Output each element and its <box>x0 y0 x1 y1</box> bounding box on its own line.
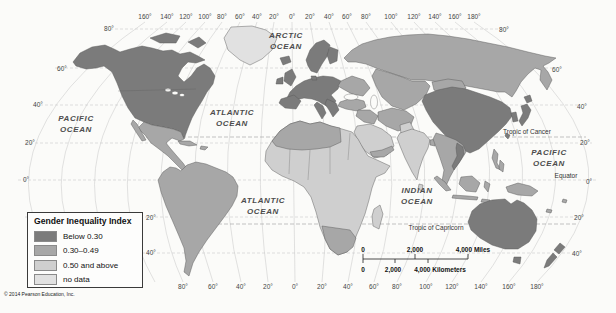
longitude-label: 120° <box>179 13 193 20</box>
longitude-label: 40° <box>343 283 353 290</box>
region-philippines <box>499 160 504 172</box>
latitude-label: 20° <box>580 139 590 146</box>
longitude-label: 40° <box>252 13 262 20</box>
longitude-label: 140° <box>474 283 488 290</box>
pacific-ocean-e-label: PACIFIC <box>531 148 567 157</box>
longitude-label: 80° <box>361 13 371 20</box>
legend: Gender Inequality Index Below 0.300.30–0… <box>27 212 143 288</box>
region-hispaniola <box>200 146 208 150</box>
atlantic-ocean-s-label: OCEAN <box>247 207 279 216</box>
region-iceland <box>280 56 291 65</box>
region-south-america <box>158 162 238 276</box>
region-denmark <box>311 76 317 80</box>
tropic-of-cancer-label: Tropic of Cancer <box>503 128 552 136</box>
scale-miles-label: 0 <box>361 246 365 253</box>
longitude-label: 80° <box>392 283 402 290</box>
longitude-label: 20° <box>317 283 327 290</box>
region-ireland <box>276 77 283 84</box>
longitude-label: 40° <box>236 283 246 290</box>
tropic-of-capricorn-label: Tropic of Capricorn <box>408 224 463 232</box>
region-new-zealand <box>544 253 557 268</box>
longitude-label: 120° <box>445 283 459 290</box>
region-cuba <box>178 141 197 146</box>
legend-items: Below 0.300.30–0.490.50 and aboveno data <box>34 229 136 287</box>
latitude-label: 0° <box>23 176 30 183</box>
longitude-label: 160° <box>448 13 462 20</box>
scale-miles-label: 2,000 <box>407 246 424 254</box>
scale-kilometers-label: 2,000 <box>385 266 402 274</box>
longitude-label: 40° <box>324 13 334 20</box>
legend-item-label: Below 0.30 <box>63 232 103 241</box>
indian-ocean-label: OCEAN <box>401 197 433 206</box>
copyright: © 2014 Pearson Education, Inc. <box>4 291 75 297</box>
legend-swatch <box>34 274 57 285</box>
scale-bar <box>363 254 468 263</box>
latitude-label: 80° <box>104 25 114 32</box>
longitude-label: 100° <box>384 13 398 20</box>
region-arctic-islands <box>188 37 206 48</box>
longitude-label: 60° <box>208 283 218 290</box>
region-new-zealand <box>554 243 565 254</box>
latitude-label: 20° <box>574 214 584 221</box>
region-india <box>397 129 430 180</box>
legend-swatch <box>34 231 57 242</box>
legend-item: no data <box>34 273 136 288</box>
longitude-label: 100° <box>419 283 433 290</box>
longitude-label: 60° <box>342 13 352 20</box>
region-pacific-island <box>546 209 552 213</box>
longitude-label: 140° <box>160 13 174 20</box>
pacific-ocean-nw-label: PACIFIC <box>58 114 94 123</box>
longitude-label: 160° <box>502 283 516 290</box>
legend-item-label: 0.30–0.49 <box>63 246 99 255</box>
pacific-ocean-e-label: OCEAN <box>533 159 565 168</box>
region-uk <box>284 69 296 86</box>
latitude-label: 20° <box>25 139 35 146</box>
arctic-ocean-label: ARCTIC <box>268 31 303 40</box>
region-iraq-syria <box>356 110 378 124</box>
scale-bar-labels: 02,0004,000 Miles02,0004,000 Kilometers <box>361 246 490 275</box>
latitude-label: 80° <box>499 26 509 33</box>
legend-title: Gender Inequality Index <box>34 216 136 226</box>
longitude-label: 160° <box>138 13 152 20</box>
legend-item: Below 0.30 <box>34 229 136 244</box>
latitude-label: 60° <box>57 65 67 72</box>
region-north-africa <box>272 121 341 150</box>
region-eastern-europe <box>338 76 370 96</box>
atlantic-ocean-n-label: ATLANTIC <box>209 108 254 117</box>
longitude-label: 180° <box>530 283 544 290</box>
pacific-ocean-nw-label: OCEAN <box>60 125 92 134</box>
scale-kilometers-label: 0 <box>361 266 365 273</box>
region-korea <box>511 112 518 122</box>
latitude-label: 40° <box>33 101 43 108</box>
atlantic-ocean-s-label: ATLANTIC <box>240 196 285 205</box>
legend-item: 0.30–0.49 <box>34 244 136 259</box>
legend-swatch <box>34 260 57 271</box>
region-pacific-island <box>562 199 567 203</box>
map-figure: 160°140°120°100°80°60°40°20°0°20°40°60°8… <box>0 0 616 313</box>
legend-item-label: 0.50 and above <box>63 261 118 270</box>
longitude-label: 20° <box>305 13 315 20</box>
region-balkans <box>325 99 339 117</box>
latitude-label: 40° <box>577 103 587 110</box>
scale-kilometers-label: 4,000 Kilometers <box>414 266 466 274</box>
region-japan <box>524 95 532 103</box>
longitude-label: 60° <box>235 13 245 20</box>
region-new-guinea <box>506 183 538 196</box>
longitude-label: 60° <box>369 283 379 290</box>
region-tasmania <box>513 257 521 264</box>
longitude-label: 0° <box>289 13 296 20</box>
latitude-label: 40° <box>572 250 582 257</box>
longitude-label: 80° <box>217 13 227 20</box>
arctic-ocean-label: OCEAN <box>270 42 302 51</box>
atlantic-ocean-n-label: OCEAN <box>216 119 248 128</box>
longitude-label: 0° <box>292 283 299 290</box>
region-australia <box>468 199 537 249</box>
region-japan <box>519 104 531 126</box>
longitude-label: 100° <box>198 13 212 20</box>
legend-item: 0.50 and above <box>34 258 136 273</box>
longitude-label: 180° <box>467 13 481 20</box>
latitude-label: 20° <box>146 214 156 221</box>
equator-label: Equator <box>555 172 579 180</box>
legend-item-label: no data <box>63 275 90 284</box>
latitude-label: 60° <box>552 66 562 73</box>
